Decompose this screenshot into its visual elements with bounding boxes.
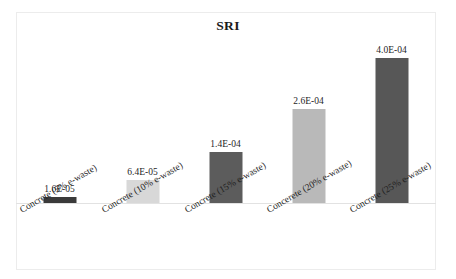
bar-slot: 6.4E-05 [101, 40, 184, 203]
bar-value-label-5: 4.0E-04 [376, 45, 406, 55]
sri-bar-chart: SRI 1.6E-056.4E-051.4E-042.6E-044.0E-04 … [0, 0, 456, 279]
bar-slot: 1.6E-05 [18, 40, 101, 203]
category-axis-line [16, 203, 436, 204]
bar-slot: 2.6E-04 [267, 40, 350, 203]
bar-slot: 1.4E-04 [184, 40, 267, 203]
bar-value-label-3: 1.4E-04 [210, 139, 240, 149]
chart-title: SRI [0, 18, 456, 34]
bar-value-label-4: 2.6E-04 [293, 96, 323, 106]
bar-slot: 4.0E-04 [350, 40, 433, 203]
